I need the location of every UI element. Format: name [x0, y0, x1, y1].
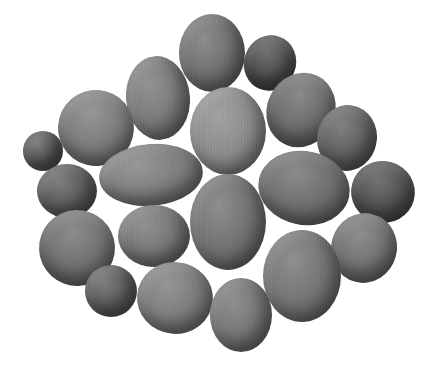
kiwifruit: [118, 205, 190, 267]
kiwifruit: [190, 87, 266, 175]
kiwifruit: [179, 14, 245, 92]
kiwifruit: [190, 174, 266, 270]
kiwifruit-photo: [0, 0, 428, 368]
kiwifruit: [134, 259, 216, 337]
kiwifruit: [210, 278, 272, 352]
kiwifruit: [263, 230, 341, 322]
kiwifruit: [85, 265, 137, 317]
